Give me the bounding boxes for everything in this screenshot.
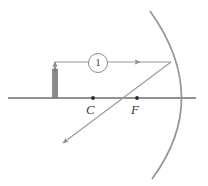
ray-diagram-figure: 1 C F: [0, 0, 208, 186]
ray-number-badge: 1: [88, 53, 108, 73]
label-center-of-curvature: C: [86, 103, 95, 116]
concave-mirror-arc: [150, 11, 182, 179]
point-c-marker: [91, 96, 95, 100]
label-focal-point: F: [131, 103, 139, 116]
diagram-canvas: [0, 0, 208, 186]
reflected-ray: [63, 62, 171, 143]
point-f-marker: [135, 96, 139, 100]
object-body: [53, 69, 58, 98]
